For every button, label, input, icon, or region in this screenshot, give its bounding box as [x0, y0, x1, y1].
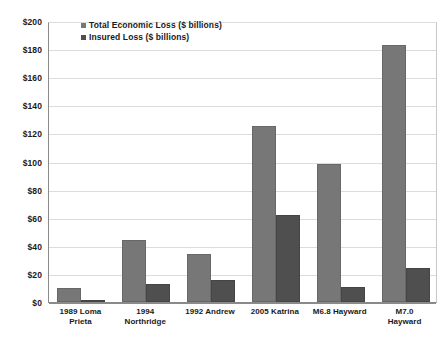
legend-item: Insured Loss ($ billions)	[81, 32, 222, 42]
x-axis-tick-line: 1989 Loma	[60, 307, 102, 317]
x-axis-tick-label: 1994Northridge	[125, 307, 166, 327]
y-axis-tick-label: $20	[28, 270, 42, 280]
x-axis-tick-line: Northridge	[125, 317, 166, 327]
y-axis-tick-label: $100	[23, 158, 42, 168]
bar-group	[373, 23, 438, 302]
legend-swatch-icon	[81, 35, 86, 40]
bar-group	[244, 23, 309, 302]
bar-total-economic-loss	[382, 45, 406, 302]
bar-group	[49, 23, 114, 302]
y-axis-tick-label: $160	[23, 73, 42, 83]
y-axis-tick-label: $0	[32, 298, 42, 308]
x-axis-tick-label: 1992 Andrew	[185, 307, 235, 317]
y-axis-tick-label: $180	[23, 45, 42, 55]
bar-chart: $0$20$40$60$80$100$120$140$160$180$200 T…	[0, 0, 448, 343]
bar-total-economic-loss	[122, 240, 146, 302]
bar-insured-loss	[81, 300, 105, 302]
legend-label: Total Economic Loss ($ billions)	[89, 20, 222, 30]
x-axis-tick-line: 1994	[125, 307, 166, 317]
x-axis-tick-line: 1992 Andrew	[185, 307, 235, 317]
x-axis: 1989 LomaPrieta1994Northridge1992 Andrew…	[48, 305, 437, 341]
x-axis-tick-label: 2005 Katrina	[251, 307, 299, 317]
bar-total-economic-loss	[187, 254, 211, 302]
bar-insured-loss	[146, 284, 170, 302]
legend-label: Insured Loss ($ billions)	[89, 32, 189, 42]
bar-insured-loss	[276, 215, 300, 302]
y-axis-tick-label: $60	[28, 214, 42, 224]
chart-legend: Total Economic Loss ($ billions)Insured …	[81, 20, 222, 42]
x-axis-tick-line: M7.0 Hayward	[388, 307, 422, 327]
x-axis-tick-line: 2005 Katrina	[251, 307, 299, 317]
bar-insured-loss	[406, 268, 430, 302]
bar-total-economic-loss	[252, 126, 276, 302]
bar-group	[179, 23, 244, 302]
plot-area	[48, 22, 437, 303]
bar-total-economic-loss	[317, 164, 341, 302]
x-axis-tick-label: M7.0 Hayward	[388, 307, 422, 327]
bar-insured-loss	[341, 287, 365, 302]
x-axis-tick-line: Prieta	[60, 317, 102, 327]
bar-group	[308, 23, 373, 302]
y-axis-tick-label: $120	[23, 129, 42, 139]
x-axis-tick-label: 1989 LomaPrieta	[60, 307, 102, 327]
y-axis-tick-label: $140	[23, 101, 42, 111]
bar-total-economic-loss	[57, 288, 81, 302]
y-axis-tick-label: $40	[28, 242, 42, 252]
y-axis-tick-label: $80	[28, 186, 42, 196]
legend-swatch-icon	[81, 23, 86, 28]
y-axis: $0$20$40$60$80$100$120$140$160$180$200	[0, 22, 48, 303]
x-axis-tick-label: M6.8 Hayward	[313, 307, 367, 317]
bar-insured-loss	[211, 280, 235, 302]
gridline	[49, 303, 436, 304]
bar-group	[114, 23, 179, 302]
bars-layer	[49, 23, 436, 302]
x-axis-tick-line: M6.8 Hayward	[313, 307, 367, 317]
y-axis-tick-label: $200	[23, 17, 42, 27]
legend-item: Total Economic Loss ($ billions)	[81, 20, 222, 30]
